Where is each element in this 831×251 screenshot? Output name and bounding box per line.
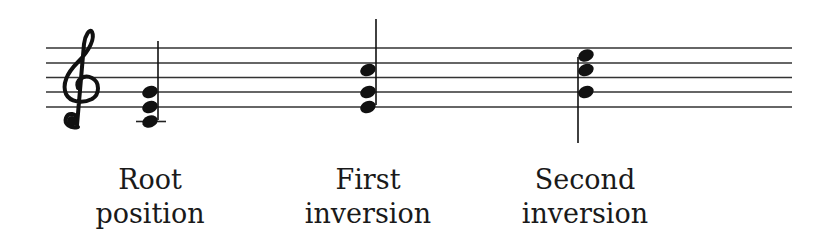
label-line-1: Root xyxy=(50,163,250,197)
label-line-2: inversion xyxy=(485,197,685,231)
label-line-1: Second xyxy=(485,163,685,197)
chord-root-position xyxy=(136,41,166,130)
treble-clef-icon xyxy=(65,31,99,128)
chord-second-inversion xyxy=(576,47,595,143)
chord-first-inversion xyxy=(358,19,377,116)
label-root-position: Root position xyxy=(50,163,250,231)
label-line-2: position xyxy=(50,197,250,231)
label-first-inversion: First inversion xyxy=(268,163,468,231)
label-line-1: First xyxy=(268,163,468,197)
label-line-2: inversion xyxy=(268,197,468,231)
music-staff-diagram xyxy=(0,0,831,160)
label-second-inversion: Second inversion xyxy=(485,163,685,231)
